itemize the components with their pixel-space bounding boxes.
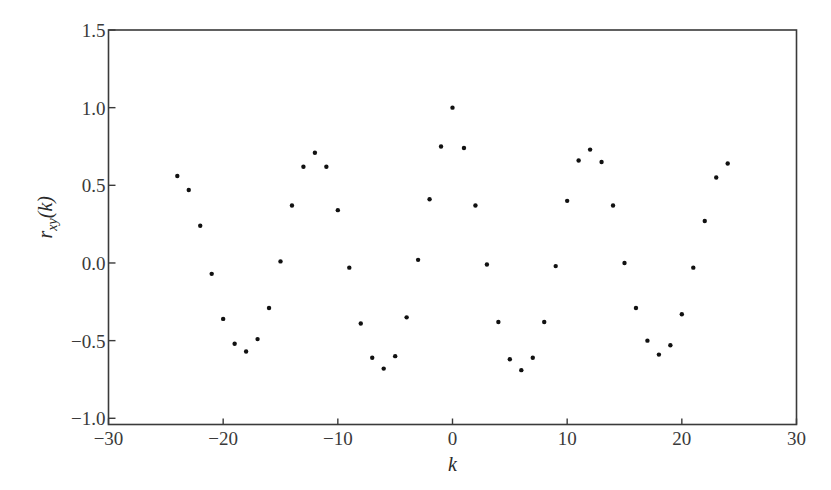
y-axis-label-subscript: xy — [45, 217, 60, 231]
data-point — [508, 357, 512, 361]
data-point — [210, 272, 214, 276]
data-point — [416, 258, 420, 262]
data-point — [496, 320, 500, 324]
data-point — [439, 144, 443, 148]
data-point — [542, 320, 546, 324]
x-tick-label: 0 — [448, 428, 458, 449]
data-point — [473, 203, 477, 207]
data-point — [278, 259, 282, 263]
data-point — [611, 203, 615, 207]
data-point — [645, 338, 649, 342]
x-tick-label: −20 — [208, 428, 238, 449]
data-point — [680, 312, 684, 316]
y-tick-label: −1.0 — [71, 408, 105, 429]
scatter-chart: −30−20−100102030 1.51.00.50.0−0.5−1.0 k … — [0, 0, 831, 490]
data-point — [554, 264, 558, 268]
data-point — [576, 158, 580, 162]
y-axis-label: rxy(k) — [34, 196, 60, 239]
data-point — [301, 164, 305, 168]
data-point — [599, 160, 603, 164]
x-tick-label: −30 — [94, 428, 124, 449]
data-point — [370, 356, 374, 360]
data-point — [290, 203, 294, 207]
data-points — [175, 105, 730, 372]
y-axis-label-argument: (k) — [34, 196, 57, 219]
data-point — [450, 105, 454, 109]
x-axis-label: k — [448, 453, 458, 475]
data-point — [393, 354, 397, 358]
y-tick-label: 1.0 — [82, 98, 106, 119]
data-point — [519, 368, 523, 372]
data-point — [427, 197, 431, 201]
data-point — [313, 150, 317, 154]
data-point — [668, 343, 672, 347]
x-axis-ticks: −30−20−100102030 — [94, 419, 806, 449]
y-axis-label-base: r — [34, 230, 56, 238]
data-point — [244, 349, 248, 353]
y-tick-label: 1.5 — [82, 20, 106, 41]
data-point — [462, 146, 466, 150]
data-point — [232, 342, 236, 346]
data-point — [622, 261, 626, 265]
data-point — [634, 306, 638, 310]
data-point — [588, 147, 592, 151]
data-point — [714, 175, 718, 179]
data-point — [565, 199, 569, 203]
x-tick-label: 30 — [787, 428, 806, 449]
data-point — [255, 337, 259, 341]
data-point — [267, 306, 271, 310]
x-tick-label: 10 — [558, 428, 577, 449]
data-point — [359, 321, 363, 325]
y-tick-label: 0.0 — [82, 253, 106, 274]
data-point — [347, 265, 351, 269]
data-point — [485, 262, 489, 266]
y-tick-label: −0.5 — [71, 331, 105, 352]
data-point — [175, 174, 179, 178]
data-point — [726, 161, 730, 165]
data-point — [382, 366, 386, 370]
data-point — [198, 223, 202, 227]
x-tick-label: −10 — [323, 428, 353, 449]
data-point — [221, 317, 225, 321]
y-tick-label: 0.5 — [82, 175, 106, 196]
plot-frame — [109, 30, 797, 425]
data-point — [187, 188, 191, 192]
data-point — [531, 356, 535, 360]
data-point — [336, 208, 340, 212]
data-point — [404, 315, 408, 319]
data-point — [703, 219, 707, 223]
x-tick-label: 20 — [672, 428, 691, 449]
data-point — [691, 265, 695, 269]
data-point — [657, 352, 661, 356]
data-point — [324, 164, 328, 168]
